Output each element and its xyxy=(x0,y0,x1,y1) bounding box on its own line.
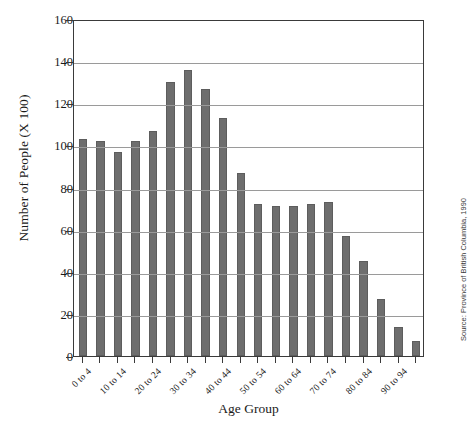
x-tick-mark xyxy=(117,357,118,363)
x-tick-mark xyxy=(82,357,83,363)
x-tick-mark xyxy=(134,357,135,363)
x-tick-label: 40 to 44 xyxy=(203,366,233,396)
x-tick-mark xyxy=(310,357,311,363)
x-tick-label: 10 to 14 xyxy=(98,366,128,396)
x-tick-mark xyxy=(292,357,293,363)
x-tick-mark xyxy=(152,357,153,363)
x-axis-title: Age Group xyxy=(73,401,424,417)
x-tick-mark xyxy=(257,357,258,363)
source-note: Source: Province of British Columbia, 19… xyxy=(459,180,468,360)
x-tick-label: 70 to 74 xyxy=(308,366,338,396)
x-tick-label: 90 to 94 xyxy=(379,366,409,396)
x-tick-mark xyxy=(99,357,100,363)
x-tick-mark xyxy=(205,357,206,363)
x-tick-mark xyxy=(222,357,223,363)
x-tick-mark xyxy=(415,357,416,363)
x-tick-mark xyxy=(363,357,364,363)
x-tick-mark xyxy=(380,357,381,363)
x-tick-label: 80 to 84 xyxy=(343,366,373,396)
x-tick-mark xyxy=(240,357,241,363)
x-tick-mark xyxy=(275,357,276,363)
x-axis-ticks-and-labels: 0 to 410 to 1420 to 2430 to 3440 to 4450… xyxy=(0,0,474,434)
x-tick-mark xyxy=(327,357,328,363)
x-tick-label: 50 to 54 xyxy=(238,366,268,396)
x-tick-mark xyxy=(398,357,399,363)
x-tick-label: 0 to 4 xyxy=(70,366,93,389)
x-tick-label: 20 to 24 xyxy=(133,366,163,396)
x-tick-label: 30 to 34 xyxy=(168,366,198,396)
x-tick-mark xyxy=(187,357,188,363)
x-tick-mark xyxy=(170,357,171,363)
x-tick-label: 60 to 64 xyxy=(273,366,303,396)
bar-chart: Number of People (X 100) 020406080100120… xyxy=(0,0,474,434)
x-tick-mark xyxy=(345,357,346,363)
